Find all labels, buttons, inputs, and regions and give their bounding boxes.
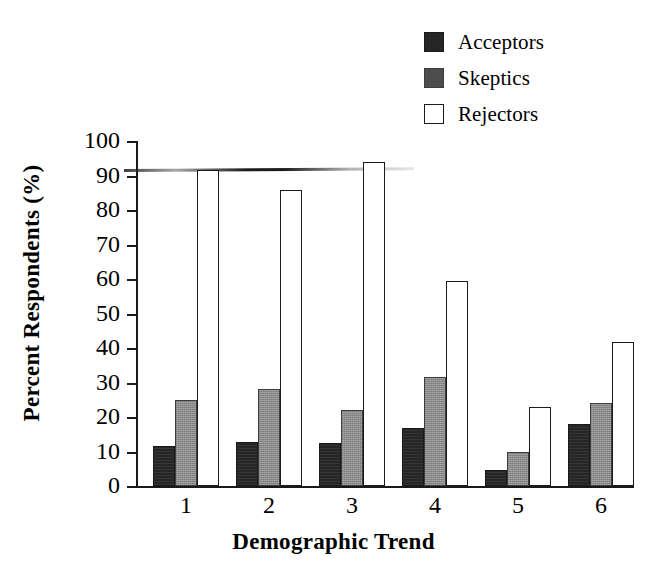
x-axis-tick-label: 3 bbox=[319, 493, 385, 517]
legend-item-skeptics: Skeptics bbox=[424, 60, 624, 96]
bar-group bbox=[402, 141, 468, 486]
bar-rejectors bbox=[197, 170, 219, 486]
y-axis-tick-label: 50 bbox=[96, 301, 120, 325]
bar-rejectors bbox=[612, 342, 634, 486]
legend-swatch-acceptors bbox=[424, 32, 444, 52]
bar-skeptics bbox=[507, 452, 529, 486]
x-axis-tick-label: 1 bbox=[153, 493, 219, 517]
bar-acceptors bbox=[153, 446, 175, 486]
y-axis-tick: 10 bbox=[127, 452, 136, 454]
bar-acceptors bbox=[319, 443, 341, 486]
y-axis-tick: 40 bbox=[127, 348, 136, 350]
y-axis-tick-label: 100 bbox=[84, 128, 120, 152]
bar-skeptics bbox=[424, 377, 446, 486]
y-axis-tick-label: 70 bbox=[96, 232, 120, 256]
x-axis-title: Demographic Trend bbox=[0, 529, 667, 555]
bar-rejectors bbox=[280, 190, 302, 486]
bar-skeptics bbox=[258, 389, 280, 486]
x-axis-tick-label: 5 bbox=[485, 493, 551, 517]
bar-group bbox=[153, 141, 219, 486]
bar-group bbox=[319, 141, 385, 486]
legend-label-skeptics: Skeptics bbox=[458, 68, 530, 89]
x-axis-tick-label: 6 bbox=[568, 493, 634, 517]
bar-acceptors bbox=[568, 424, 590, 486]
bar-acceptors bbox=[236, 442, 258, 486]
y-axis-tick: 50 bbox=[127, 314, 136, 316]
y-axis-tick: 70 bbox=[127, 245, 136, 247]
y-axis-tick: 100 bbox=[127, 141, 136, 143]
bar-rejectors bbox=[529, 407, 551, 486]
plot-area: 0102030405060708090100 123456 bbox=[136, 141, 634, 488]
y-axis-tick-label: 0 bbox=[108, 473, 120, 497]
y-axis-tick: 90 bbox=[127, 176, 136, 178]
legend-item-acceptors: Acceptors bbox=[424, 24, 624, 60]
legend-swatch-rejectors bbox=[424, 104, 444, 124]
chart-legend: Acceptors Skeptics Rejectors bbox=[424, 24, 624, 132]
bar-chart-figure: Acceptors Skeptics Rejectors 01020304050… bbox=[0, 0, 667, 577]
y-axis-tick-label: 30 bbox=[96, 370, 120, 394]
y-axis-tick-label: 80 bbox=[96, 197, 120, 221]
bar-skeptics bbox=[590, 403, 612, 486]
legend-label-acceptors: Acceptors bbox=[458, 32, 544, 53]
y-axis-tick: 20 bbox=[127, 417, 136, 419]
bar-rejectors bbox=[446, 281, 468, 486]
bar-rejectors bbox=[363, 162, 385, 486]
legend-label-rejectors: Rejectors bbox=[458, 104, 538, 125]
y-axis-tick-label: 40 bbox=[96, 335, 120, 359]
y-axis-tick-label: 20 bbox=[96, 404, 120, 428]
bar-skeptics bbox=[175, 400, 197, 486]
y-axis-tick: 60 bbox=[127, 279, 136, 281]
y-axis-tick-label: 90 bbox=[96, 163, 120, 187]
x-axis-tick-label: 2 bbox=[236, 493, 302, 517]
y-axis-title: Percent Respondents (%) bbox=[19, 103, 45, 483]
bar-skeptics bbox=[341, 410, 363, 486]
legend-item-rejectors: Rejectors bbox=[424, 96, 624, 132]
bar-group bbox=[485, 141, 551, 486]
bar-acceptors bbox=[402, 428, 424, 486]
y-axis-tick: 0 bbox=[127, 486, 136, 488]
y-axis-tick-label: 60 bbox=[96, 266, 120, 290]
y-axis-tick-label: 10 bbox=[96, 439, 120, 463]
legend-swatch-skeptics bbox=[424, 68, 444, 88]
bar-group bbox=[236, 141, 302, 486]
x-axis-tick-label: 4 bbox=[402, 493, 468, 517]
bar-groups bbox=[136, 141, 634, 486]
y-axis-tick: 30 bbox=[127, 383, 136, 385]
bar-group bbox=[568, 141, 634, 486]
y-axis-tick: 80 bbox=[127, 210, 136, 212]
x-axis-line bbox=[136, 486, 634, 488]
bar-acceptors bbox=[485, 470, 507, 486]
